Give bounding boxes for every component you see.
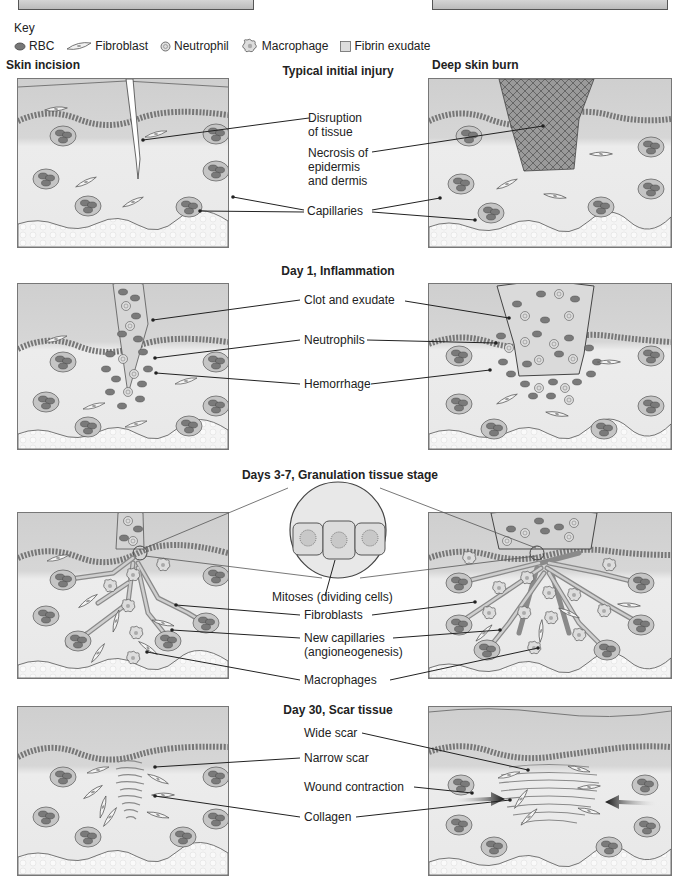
label-wide-scar: Wide scar (304, 726, 357, 740)
label-collagen: Collagen (304, 810, 351, 824)
label-narrow-scar: Narrow scar (304, 751, 369, 765)
panel-burn-initial (428, 78, 672, 248)
magnified-mitoses-circle (290, 482, 386, 578)
panel-incision-initial (17, 78, 229, 248)
label-fibroblasts: Fibroblasts (304, 608, 363, 622)
banner-second-intention-text: HEALING BY SECOND INTENTION (445, 0, 655, 3)
key-label-rbc: RBC (29, 39, 54, 53)
illustration-burn-day30 (429, 707, 671, 875)
key-item-macrophage: Macrophage (241, 38, 329, 54)
banner-first-intention-text: HEALING BY FIRST INTENTION (40, 0, 233, 3)
label-clot-and-exudate: Clot and exudate (304, 293, 395, 307)
illustration-incision-day30 (18, 707, 228, 875)
banner-first-intention: HEALING BY FIRST INTENTION (18, 0, 254, 10)
label-wound-contraction: Wound contraction (304, 780, 404, 794)
panel-incision-days3-7 (17, 512, 229, 679)
label-capillaries: Capillaries (307, 204, 363, 218)
illustration-burn-days3-7 (429, 513, 671, 678)
illustration-incision-days3-7 (18, 513, 228, 678)
column-header-skin-incision: Skin incision (6, 58, 80, 72)
key-legend: RBC Fibroblast Neutrophil Macrophage Fib… (14, 38, 439, 54)
panel-burn-day1 (428, 283, 672, 450)
label-disruption-of-tissue: Disruption of tissue (308, 111, 362, 139)
illustration-burn-day1 (429, 284, 671, 449)
fibroblast-icon (66, 41, 92, 51)
key-item-fibroblast: Fibroblast (66, 39, 148, 53)
fibrin-exudate-icon (340, 41, 351, 52)
stage-title-day30: Day 30, Scar tissue (218, 703, 458, 717)
key-item-fibrin-exudate: Fibrin exudate (340, 39, 430, 53)
label-necrosis: Necrosis of epidermis and dermis (308, 146, 368, 188)
label-new-capillaries: New capillaries (angioneogenesis) (304, 631, 403, 659)
panel-incision-day30 (17, 706, 229, 876)
stage-title-days3-7: Days 3-7, Granulation tissue stage (200, 468, 480, 482)
panel-incision-day1 (17, 283, 229, 450)
label-neutrophils: Neutrophils (304, 333, 365, 347)
rbc-icon (14, 42, 26, 51)
panel-burn-day30 (428, 706, 672, 876)
label-macrophages: Macrophages (304, 673, 377, 687)
macrophage-icon (241, 38, 259, 54)
panel-burn-days3-7 (428, 512, 672, 679)
key-label-fibroblast: Fibroblast (95, 39, 148, 53)
label-mitoses: Mitoses (dividing cells) (272, 590, 393, 604)
illustration-incision-day1 (18, 284, 228, 449)
key-label-fibrin-exudate: Fibrin exudate (354, 39, 430, 53)
label-hemorrhage: Hemorrhage (304, 377, 371, 391)
banner-second-intention: HEALING BY SECOND INTENTION (432, 0, 668, 10)
key-label-neutrophil: Neutrophil (174, 39, 229, 53)
stage-title-initial-injury: Typical initial injury (218, 64, 458, 78)
illustration-incision-initial (18, 79, 228, 247)
key-item-neutrophil: Neutrophil (160, 39, 229, 53)
stage-title-day1: Day 1, Inflammation (218, 264, 458, 278)
key-label-macrophage: Macrophage (262, 39, 329, 53)
illustration-burn-initial (429, 79, 671, 247)
key-title: Key (14, 21, 35, 35)
key-item-rbc: RBC (14, 39, 54, 53)
neutrophil-icon (160, 41, 171, 52)
